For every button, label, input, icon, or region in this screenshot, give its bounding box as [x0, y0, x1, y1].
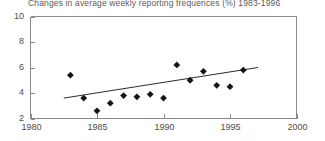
- data-point-marker: [67, 72, 74, 79]
- data-point-marker: [134, 93, 141, 100]
- y-axis-tick-label: 8: [2, 36, 24, 46]
- plot-area: [0, 0, 325, 141]
- trend-line: [64, 68, 258, 99]
- data-point-marker: [160, 95, 167, 102]
- data-points: [67, 62, 247, 115]
- data-point-marker: [200, 68, 207, 75]
- data-point-marker: [213, 82, 220, 89]
- y-axis-tick-label: 4: [2, 87, 24, 97]
- data-point-marker: [227, 83, 234, 90]
- y-axis-tick-label: 10: [2, 11, 24, 21]
- x-axis-tick-label: 1995: [211, 122, 251, 132]
- chart-container: Changes in average weekly reporting freq…: [0, 0, 325, 141]
- data-point-marker: [173, 62, 180, 69]
- x-axis-tick-label: 1980: [12, 122, 52, 132]
- y-axis-ticks: [31, 18, 35, 120]
- x-axis-tick-label: 1990: [145, 122, 185, 132]
- data-point-marker: [120, 92, 127, 99]
- data-point-marker: [107, 100, 114, 107]
- x-axis-tick-label: 2000: [278, 122, 318, 132]
- data-point-marker: [147, 91, 154, 98]
- y-axis-tick-label: 6: [2, 62, 24, 72]
- data-point-marker: [94, 107, 101, 114]
- data-point-marker: [240, 67, 247, 74]
- x-axis-tick-label: 1985: [78, 122, 118, 132]
- trend-line-segment: [64, 68, 258, 99]
- x-axis-ticks: [32, 114, 298, 119]
